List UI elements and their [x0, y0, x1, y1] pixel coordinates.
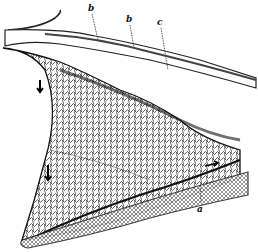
label-a: a	[197, 204, 203, 214]
illustration: b b c a	[0, 0, 258, 252]
label-c: c	[157, 17, 162, 27]
capillary-network-drawing	[0, 0, 258, 252]
label-b-first: b	[88, 3, 94, 13]
arrow-upper-icon	[37, 80, 43, 92]
label-b-second: b	[126, 14, 132, 24]
